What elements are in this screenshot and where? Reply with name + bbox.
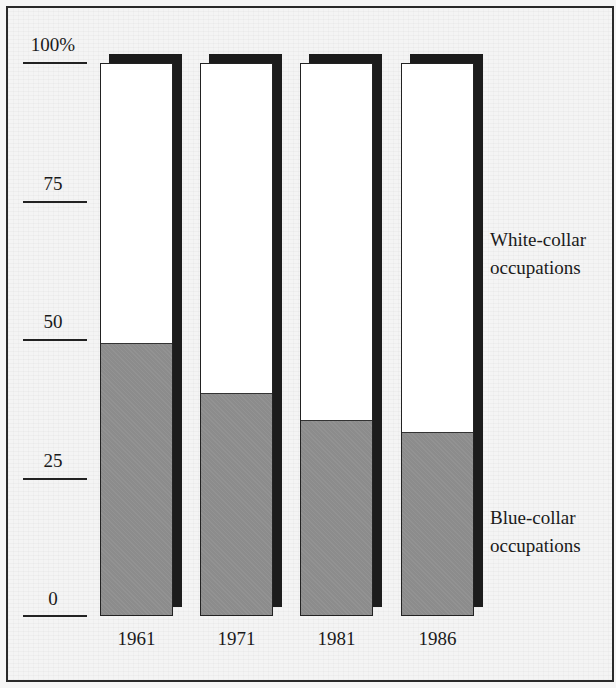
y-tick-line-75 bbox=[23, 201, 87, 203]
y-tick-label-50: 50 bbox=[18, 311, 88, 333]
x-tick-label-1971: 1971 bbox=[197, 628, 277, 650]
legend-white-collar-line2: occupations bbox=[490, 254, 586, 282]
y-tick-line-50 bbox=[23, 339, 87, 341]
x-tick-label-1981: 1981 bbox=[297, 628, 377, 650]
y-tick-line-100 bbox=[23, 62, 87, 64]
x-tick-label-1961: 1961 bbox=[97, 628, 177, 650]
y-tick-label-75: 75 bbox=[18, 173, 88, 195]
x-tick-label-1986: 1986 bbox=[398, 628, 478, 650]
legend-blue-collar-line1: Blue-collar bbox=[490, 504, 581, 532]
y-tick-label-25: 25 bbox=[18, 450, 88, 472]
bar-1961 bbox=[100, 63, 173, 616]
y-tick-label-100: 100% bbox=[18, 34, 88, 56]
bar-segment-blue-collar-1971 bbox=[201, 393, 272, 615]
y-tick-label-0: 0 bbox=[18, 588, 88, 610]
bar-1986 bbox=[401, 63, 474, 616]
bar-segment-blue-collar-1981 bbox=[301, 420, 372, 615]
bar-segment-blue-collar-1986 bbox=[402, 432, 473, 615]
legend-blue-collar: Blue-collar occupations bbox=[490, 504, 581, 560]
y-tick-line-25 bbox=[23, 478, 87, 480]
y-tick-line-0 bbox=[23, 615, 87, 617]
legend-blue-collar-line2: occupations bbox=[490, 532, 581, 560]
bar-1981 bbox=[300, 63, 373, 616]
bar-1971 bbox=[200, 63, 273, 616]
legend-white-collar: White-collar occupations bbox=[490, 226, 586, 282]
legend-white-collar-line1: White-collar bbox=[490, 226, 586, 254]
bar-segment-blue-collar-1961 bbox=[101, 343, 172, 615]
